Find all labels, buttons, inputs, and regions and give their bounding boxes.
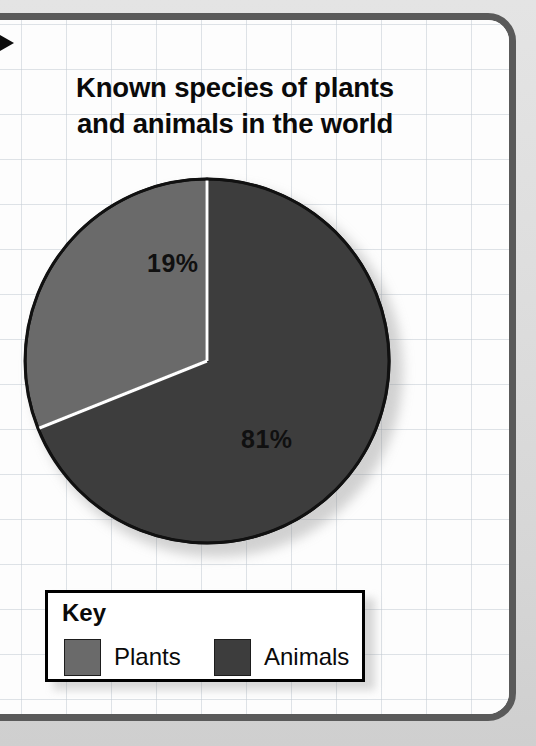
key-swatch-animals-icon (214, 639, 251, 676)
worksheet-card: Known species of plants and animals in t… (0, 13, 516, 721)
key-box: Key Plants Animals (45, 590, 365, 682)
pie-label-plants: 19% (147, 249, 199, 278)
key-entry-animals: Animals (214, 639, 349, 676)
pie-chart: 19% 81% (21, 175, 393, 547)
key-label-plants: Plants (114, 643, 181, 671)
screenshot-root: Known species of plants and animals in t… (0, 0, 536, 746)
triangle-pointer-icon (0, 26, 14, 60)
page-title-line-2: and animals in the world (0, 106, 475, 142)
key-entries: Plants Animals (64, 636, 356, 678)
key-title: Key (62, 599, 106, 627)
key-swatch-plants-icon (64, 639, 101, 676)
page-title-line-1: Known species of plants (0, 70, 475, 106)
page-title: Known species of plants and animals in t… (0, 70, 475, 143)
key-entry-plants: Plants (64, 639, 214, 676)
key-label-animals: Animals (264, 643, 349, 671)
pie-chart-svg (21, 175, 393, 547)
pie-label-animals: 81% (241, 425, 293, 454)
